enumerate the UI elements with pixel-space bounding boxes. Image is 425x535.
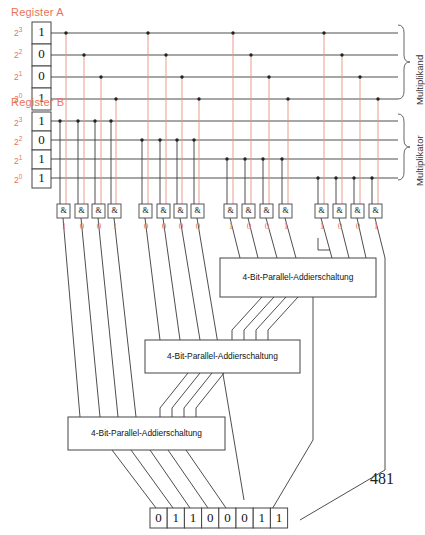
gate-output-2-1: 0: [244, 221, 254, 231]
gate-output-3-2: 0: [353, 221, 363, 231]
and-gate-3-2[interactable]: &: [351, 206, 364, 215]
and-gate-2-0[interactable]: &: [224, 206, 237, 215]
gate-output-0-1: 0: [77, 221, 87, 231]
register-a-title: Register A: [11, 6, 64, 18]
result-cell-3: 0: [219, 510, 236, 526]
multiplicand-junction-dots: [64, 31, 379, 100]
gate-output-3-0: 1: [317, 221, 327, 231]
gate-output-2-3: 1: [281, 221, 291, 231]
and-gate-0-2[interactable]: &: [92, 206, 105, 215]
adder-label-middle: 4-Bit-Parallel-Addierschaltung: [145, 351, 300, 361]
register-b-cell-2[interactable]: 0: [32, 132, 51, 148]
multiplier-drop-wires: [60, 121, 372, 204]
gate-output-3-1: 0: [335, 221, 345, 231]
result-cell-2: 0: [236, 510, 253, 526]
and-gate-2-2[interactable]: &: [260, 206, 273, 215]
gate-output-2-2: 0: [262, 221, 272, 231]
result-cell-4: 0: [202, 510, 219, 526]
adder-label-top: 4-Bit-Parallel-Addierschaltung: [220, 272, 376, 282]
and-gate-1-3[interactable]: &: [191, 206, 204, 215]
register-b-bit-label-2: 22: [14, 135, 22, 147]
register-b-cell-3[interactable]: 1: [32, 113, 51, 129]
register-a-cell-2[interactable]: 0: [32, 46, 51, 62]
register-b-bit-label-1: 21: [14, 154, 22, 166]
and-gate-1-0[interactable]: &: [139, 206, 152, 215]
gate-output-3-3: 1: [371, 221, 381, 231]
multiplier-junction-dots: [58, 119, 373, 179]
gate-output-2-0: 1: [226, 221, 236, 231]
page-number: 481: [370, 470, 394, 488]
register-a-cell-3[interactable]: 1: [32, 24, 51, 40]
result-cell-1: 1: [253, 510, 270, 526]
and-gate-0-3[interactable]: &: [108, 206, 121, 215]
result-cell-0: 1: [270, 510, 287, 526]
multiplier-brace: [398, 114, 410, 180]
adder-top-output-wires: [232, 297, 313, 516]
register-b-title: Register B: [11, 96, 64, 108]
multiplicand-brace: [398, 25, 410, 99]
and-gate-3-1[interactable]: &: [333, 206, 346, 215]
register-a-bit-label-2: 22: [14, 48, 22, 60]
adder-middle-output-wires: [160, 373, 224, 417]
gate-output-1-2: 0: [176, 221, 186, 231]
multiplicand-side-label: Multiplikand: [414, 55, 425, 105]
and-gate-3-3[interactable]: &: [369, 206, 382, 215]
gate-output-1-1: 0: [159, 221, 169, 231]
multiplier-side-label: Multiplikator: [414, 135, 425, 186]
register-b-cell-0[interactable]: 1: [32, 170, 51, 186]
result-cell-7: 0: [150, 510, 167, 526]
and-gate-0-0[interactable]: &: [57, 206, 70, 215]
register-b-cell-1[interactable]: 1: [32, 151, 51, 167]
gate-output-0-2: 0: [94, 221, 104, 231]
gate-output-1-3: 0: [193, 221, 203, 231]
register-a-bit-label-1: 21: [14, 70, 22, 82]
register-a-cell-1[interactable]: 0: [32, 68, 51, 84]
and-gate-1-2[interactable]: &: [174, 206, 187, 215]
and-gate-0-1[interactable]: &: [75, 206, 88, 215]
and-gate-2-1[interactable]: &: [242, 206, 255, 215]
result-cell-6: 1: [167, 510, 184, 526]
and-gate-1-1[interactable]: &: [157, 206, 170, 215]
gate-output-1-0: 0: [141, 221, 151, 231]
register-a-buslines: [51, 33, 398, 99]
adder-label-bottom: 4-Bit-Parallel-Addierschaltung: [68, 428, 225, 438]
and-gate-3-0[interactable]: &: [315, 206, 328, 215]
register-b-bit-label-3: 23: [14, 116, 22, 128]
register-b-bit-label-0: 20: [14, 173, 22, 185]
register-a-bit-label-3: 23: [14, 26, 22, 38]
result-cell-5: 1: [184, 510, 201, 526]
gate-output-0-3: 1: [110, 221, 120, 231]
adder-bottom-output-wires: [112, 450, 226, 508]
and-gate-2-3[interactable]: &: [279, 206, 292, 215]
register-b-buslines: [51, 121, 398, 178]
gate-output-0-0: 1: [59, 221, 69, 231]
